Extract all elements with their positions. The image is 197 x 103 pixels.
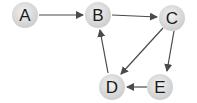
node-c-label: C	[166, 9, 178, 28]
node-d-label: D	[106, 78, 118, 97]
node-a: A	[12, 2, 38, 28]
node-e: E	[147, 74, 173, 100]
edge-d-b	[100, 30, 108, 73]
node-d: D	[99, 74, 125, 100]
edge-c-d	[121, 28, 163, 74]
node-e-label: E	[154, 78, 165, 97]
graph-diagram: A B C D E	[0, 0, 197, 103]
node-b: B	[85, 2, 111, 28]
graph-svg: A B C D E	[0, 0, 197, 103]
node-b-label: B	[92, 6, 103, 25]
node-c: C	[159, 5, 185, 31]
edge-c-e	[167, 31, 174, 71]
node-a-label: A	[19, 6, 31, 25]
edge-b-c	[112, 15, 157, 17]
